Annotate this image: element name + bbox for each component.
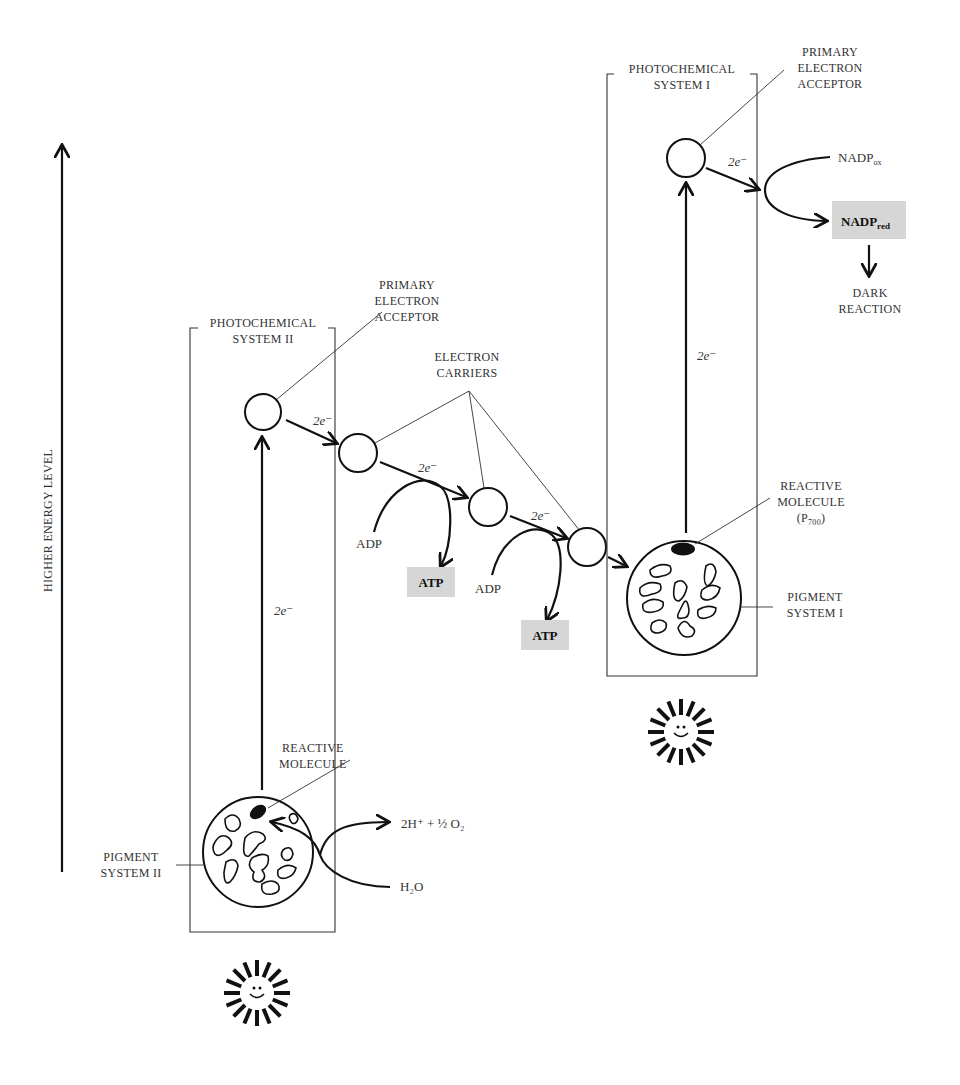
smiling-sun-icon	[224, 960, 290, 1026]
ps-ii-title-line1: PHOTOCHEMICAL	[210, 316, 316, 330]
water-in-label: H₂O	[400, 879, 423, 894]
nadp-ox-label: NADPox	[838, 150, 881, 167]
ps-i-reactive-label-line1: REACTIVE	[780, 479, 842, 493]
carrier-leader-1	[375, 391, 469, 443]
ps-i-reactive-molecule-p700	[671, 543, 695, 556]
ps-ii-reactive-label-line1: REACTIVE	[282, 741, 344, 755]
ps-ii-primary-acceptor	[245, 394, 281, 430]
ps-i-reactive-label-line3: (P700)	[797, 511, 825, 527]
carriers-label-line1: ELECTRON	[434, 350, 499, 364]
dark-reaction-label-line1: DARK	[852, 286, 887, 300]
ps-ii-pigment-label-line1: PIGMENT	[103, 850, 159, 864]
carrier-leader-2	[469, 391, 484, 488]
ps-i-reactive-label-line2: MOLECULE	[777, 495, 845, 509]
ps-i-title-line1: PHOTOCHEMICAL	[629, 62, 735, 76]
pigment-system-i	[627, 541, 741, 655]
water-out-label: 2H⁺ + ½ O₂	[401, 816, 465, 831]
adp-label-1: ADP	[356, 536, 382, 551]
ps-ii-acceptor-label-line2: ELECTRON	[374, 294, 439, 308]
ps-ii-reactive-label-line2: MOLECULE	[279, 757, 347, 771]
sun-rays	[224, 960, 290, 1026]
transfer-label-2: 2e⁻	[531, 508, 550, 523]
smiling-sun-icon	[648, 699, 714, 765]
ps-ii-excitation-label: 2e⁻	[274, 603, 293, 618]
ps-ii-pigment-label-line2: SYSTEM II	[100, 866, 161, 880]
ps-i-transfer-arrow	[706, 168, 758, 189]
ps-i-pigment-label-line2: SYSTEM I	[787, 606, 844, 620]
ps-i-reactive-leader	[695, 498, 770, 544]
ps-i-pigment-circle	[627, 541, 741, 655]
adp-label-2: ADP	[475, 581, 501, 596]
ps-i-acceptor-label-line1: PRIMARY	[802, 45, 858, 59]
atp-label-1: ATP	[418, 575, 443, 590]
electron-carrier-1	[339, 434, 377, 472]
ps-ii-title-line2: SYSTEM II	[232, 332, 293, 346]
photosystem-ii: PHOTOCHEMICAL SYSTEM II PRIMARY ELECTRON…	[100, 278, 464, 932]
carriers-label-line2: CARRIERS	[436, 366, 497, 380]
atp-synthesis-arrow-1	[374, 481, 450, 566]
ps-i-title-line2: SYSTEM I	[654, 78, 711, 92]
ps-i-acceptor-leader	[700, 70, 784, 145]
ps-i-pigment-label-line1: PIGMENT	[787, 590, 843, 604]
ps-i-acceptor-label-line2: ELECTRON	[797, 61, 862, 75]
nadp-reduction-arrow	[765, 157, 830, 221]
pigment-system-ii	[203, 797, 313, 907]
ps-ii-acceptor-label-line3: ACCEPTOR	[375, 310, 440, 324]
energy-axis-label: HIGHER ENERGY LEVEL	[41, 449, 55, 592]
transfer-arrow-3	[608, 557, 626, 566]
electron-carrier-2	[469, 488, 507, 526]
ps-ii-acceptor-label-line1: PRIMARY	[379, 278, 435, 292]
ps-i-transfer-label: 2e⁻	[728, 154, 747, 169]
z-scheme-diagram: HIGHER ENERGY LEVEL PHOTOCHEMICAL SYSTEM…	[0, 0, 960, 1085]
transfer-label-1: 2e⁻	[418, 460, 437, 475]
dark-reaction-label-line2: REACTION	[838, 302, 901, 316]
ps-i-excitation-label: 2e⁻	[697, 348, 716, 363]
energy-axis: HIGHER ENERGY LEVEL	[41, 146, 62, 872]
photosystem-i: PHOTOCHEMICAL SYSTEM I PRIMARY ELECTRON …	[607, 45, 906, 676]
oxygen-release-arrow	[320, 822, 388, 855]
ps-i-acceptor-label-line3: ACCEPTOR	[798, 77, 863, 91]
sun-rays	[648, 699, 714, 765]
ps-i-primary-acceptor	[667, 139, 705, 177]
electron-carrier-3	[568, 528, 606, 566]
electron-transport-chain: ELECTRON CARRIERS 2e⁻ 2e⁻ 2e⁻ ADP ATP AD…	[286, 350, 626, 650]
atp-synthesis-arrow-2	[492, 529, 561, 620]
transfer-label-0: 2e⁻	[313, 413, 332, 428]
atp-label-2: ATP	[532, 628, 557, 643]
